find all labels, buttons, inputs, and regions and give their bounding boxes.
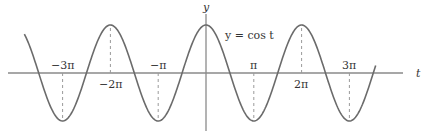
tick-label-minus-pi: −π	[150, 59, 166, 72]
t-axis-label: t	[416, 67, 421, 80]
equation-label: y = cos t	[224, 29, 274, 42]
tick-label-2pi: 2π	[294, 78, 308, 91]
tick-label-pi: π	[250, 59, 257, 72]
tick-label-minus-3pi: −3π	[51, 59, 74, 72]
tick-label-3pi: 3π	[342, 59, 356, 72]
cosine-plot: y t y = cos t −3π −2π −π π 2π 3π	[0, 0, 424, 135]
tick-label-minus-2pi: −2π	[99, 78, 122, 91]
y-axis-label: y	[202, 1, 210, 14]
